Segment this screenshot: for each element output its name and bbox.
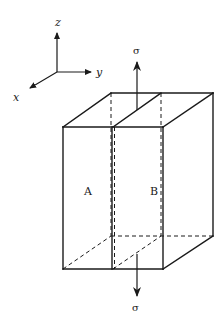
visible-edges xyxy=(63,93,213,269)
z-axis-label: z xyxy=(54,16,61,29)
stress-arrows: σ σ xyxy=(132,45,140,313)
bottom-right-diagonal-edge xyxy=(163,236,213,269)
top-stress-label: σ xyxy=(133,45,140,56)
bottom-stress-label: σ xyxy=(132,302,139,313)
top-left-diagonal-edge xyxy=(63,93,111,127)
x-axis-arrow xyxy=(30,72,57,88)
y-axis-label: y xyxy=(95,66,103,79)
hidden-edges xyxy=(63,93,213,269)
bottom-left-diagonal-edge xyxy=(63,236,111,269)
top-right-diagonal-edge xyxy=(163,93,213,127)
block-b-label: B xyxy=(150,185,158,198)
block-a-label: A xyxy=(83,185,93,198)
coordinate-axes: z y x xyxy=(13,16,103,104)
bicrystal-diagram: z y x σ σ xyxy=(0,0,224,324)
x-axis-label: x xyxy=(13,91,20,104)
